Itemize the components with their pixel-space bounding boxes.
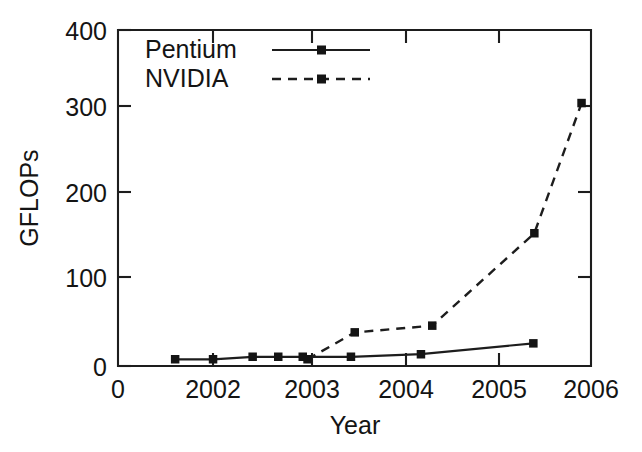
legend-label-pentium: Pentium bbox=[145, 35, 237, 63]
data-point-pentium-0 bbox=[171, 355, 180, 364]
data-point-pentium-6 bbox=[417, 350, 426, 359]
y-tick-label-100: 100 bbox=[65, 264, 107, 292]
chart-container: 400 300 200 100 0 0 200 bbox=[0, 0, 642, 452]
x-tick-label-2004: 2004 bbox=[378, 375, 434, 403]
data-point-nvidia-2 bbox=[428, 321, 437, 330]
legend-sample-pentium bbox=[272, 46, 370, 55]
y-axis-title: GFLOPs bbox=[15, 149, 43, 246]
data-point-pentium-5 bbox=[347, 353, 356, 362]
x-tick-label-2002: 2002 bbox=[185, 375, 241, 403]
y-tick-label-0: 0 bbox=[93, 353, 107, 381]
y-tick-label-200: 200 bbox=[65, 179, 107, 207]
x-tick-label-0: 0 bbox=[111, 375, 125, 403]
y-axis-ticks-right bbox=[578, 106, 591, 277]
data-point-pentium-1 bbox=[209, 355, 218, 364]
chart-legend: Pentium NVIDIA bbox=[145, 35, 370, 92]
x-tick-label-2005: 2005 bbox=[471, 375, 527, 403]
y-axis-tick-labels: 400 300 200 100 0 bbox=[65, 17, 107, 381]
legend-label-nvidia: NVIDIA bbox=[145, 64, 229, 92]
data-series-layer bbox=[171, 99, 586, 364]
legend-sample-nvidia bbox=[272, 75, 370, 84]
data-point-pentium-3 bbox=[274, 353, 283, 362]
series-line-nvidia bbox=[308, 103, 582, 359]
y-tick-label-300: 300 bbox=[65, 93, 107, 121]
x-tick-label-2003: 2003 bbox=[284, 375, 340, 403]
data-point-pentium-7 bbox=[529, 339, 538, 348]
x-axis-title: Year bbox=[330, 411, 381, 439]
y-tick-label-400: 400 bbox=[65, 17, 107, 45]
series-pentium bbox=[171, 339, 538, 363]
data-point-nvidia-4 bbox=[577, 99, 586, 108]
x-axis-ticks-top bbox=[213, 30, 499, 43]
data-point-nvidia-0 bbox=[303, 355, 312, 364]
data-point-nvidia-1 bbox=[351, 328, 360, 337]
x-tick-label-2006: 2006 bbox=[563, 375, 619, 403]
gflops-vs-year-line-chart: 400 300 200 100 0 0 200 bbox=[0, 0, 642, 452]
y-axis-ticks bbox=[118, 30, 131, 366]
x-axis-tick-labels: 0 2002 2003 2004 2005 2006 bbox=[111, 375, 619, 403]
data-point-nvidia-3 bbox=[530, 229, 539, 238]
series-nvidia bbox=[303, 99, 586, 364]
data-point-pentium-2 bbox=[248, 353, 257, 362]
